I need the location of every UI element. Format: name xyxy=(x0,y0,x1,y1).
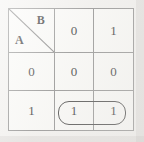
row-header-1: 1 xyxy=(9,91,55,131)
cell-r0-c1-value: 0 xyxy=(110,65,117,78)
corner-col-variable-label: B xyxy=(37,13,45,28)
row-header-0-value: 0 xyxy=(28,65,35,78)
cell-r1-c0-value: 1 xyxy=(71,104,78,117)
column-header-1: 1 xyxy=(94,9,134,53)
column-header-0: 0 xyxy=(55,9,94,53)
kmap-table-wrapper: B A 0 1 0 0 xyxy=(8,8,133,130)
cell-r0-c0-value: 0 xyxy=(71,65,78,78)
column-header-1-value: 1 xyxy=(110,24,117,37)
scan-edge-shadow-right xyxy=(136,0,144,142)
corner-row-variable-label: A xyxy=(15,33,24,48)
row-header-1-value: 1 xyxy=(28,104,35,117)
cell-r0-c1: 0 xyxy=(94,53,134,91)
cell-r0-c0: 0 xyxy=(55,53,94,91)
cell-r1-c1-value: 1 xyxy=(110,104,117,117)
kmap-figure: B A 0 1 0 0 xyxy=(0,0,144,142)
cell-r1-c1: 1 xyxy=(94,91,134,131)
scan-edge-shadow-bottom xyxy=(0,136,144,142)
column-header-0-value: 0 xyxy=(71,24,78,37)
cell-r1-c0: 1 xyxy=(55,91,94,131)
row-header-0: 0 xyxy=(9,53,55,91)
corner-header-cell: B A xyxy=(9,9,55,53)
kmap-table: B A 0 1 0 0 xyxy=(8,8,134,131)
table-row: 0 0 0 xyxy=(9,53,134,91)
table-header-row: B A 0 1 xyxy=(9,9,134,53)
table-row: 1 1 1 xyxy=(9,91,134,131)
